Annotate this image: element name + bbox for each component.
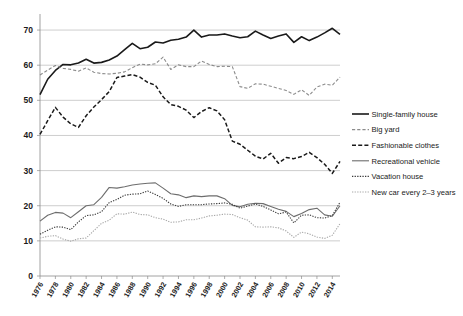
y-tick-label-10: 10	[24, 236, 34, 246]
y-tick-label-50: 50	[24, 95, 34, 105]
series-line-fashionable-clothes	[40, 75, 340, 174]
legend-label-vacation-house: Vacation house	[372, 172, 424, 181]
legend-label-fashionable-clothes: Fashionable clothes	[372, 141, 440, 150]
series-line-recreational-vehicle	[40, 183, 340, 221]
series-line-vacation-house	[40, 191, 340, 234]
x-tick-label-1982: 1982	[75, 281, 91, 300]
y-tick-label-30: 30	[24, 166, 34, 176]
x-tick-label-1984: 1984	[91, 280, 107, 299]
legend-label-single-family-house: Single-family house	[372, 110, 438, 119]
legend-label-big-yard: Big yard	[372, 125, 400, 134]
x-tick-label-2014: 2014	[322, 280, 338, 299]
x-tick-label-2008: 2008	[275, 281, 291, 300]
x-tick-label-1994: 1994	[168, 280, 184, 299]
y-tick-label-40: 40	[24, 130, 34, 140]
x-tick-label-2000: 2000	[214, 281, 230, 300]
x-tick-label-1992: 1992	[152, 281, 168, 300]
series-line-big-yard	[40, 57, 340, 95]
x-tick-label-1990: 1990	[137, 281, 153, 300]
x-tick-label-1998: 1998	[199, 281, 215, 300]
line-chart: 010203040506070 197619781980198219841986…	[0, 0, 463, 316]
x-tick-label-1996: 1996	[183, 281, 199, 300]
x-tick-label-2006: 2006	[260, 281, 276, 300]
gridlines	[40, 30, 340, 241]
series-lines	[40, 28, 340, 241]
x-tick-label-1978: 1978	[45, 281, 61, 300]
y-tick-label-70: 70	[24, 25, 34, 35]
x-tick-label-2012: 2012	[306, 281, 322, 300]
x-axis: 1976197819801982198419861988199019921994…	[29, 276, 340, 299]
x-tick-label-2010: 2010	[291, 281, 307, 300]
y-axis: 010203040506070	[24, 14, 40, 281]
chart-legend: Single-family houseBig yardFashionable c…	[352, 110, 456, 197]
y-tick-label-20: 20	[24, 201, 34, 211]
legend-label-new-car-every-2-3-years: New car every 2–3 years	[372, 188, 456, 197]
x-tick-label-2004: 2004	[245, 280, 261, 299]
y-tick-label-0: 0	[28, 271, 33, 281]
x-tick-label-1980: 1980	[60, 281, 76, 300]
chart-container: 010203040506070 197619781980198219841986…	[0, 0, 463, 316]
x-tick-label-1988: 1988	[122, 281, 138, 300]
series-line-single-family-house	[40, 28, 340, 94]
x-tick-label-1986: 1986	[106, 281, 122, 300]
y-tick-label-60: 60	[24, 60, 34, 70]
x-tick-label-1976: 1976	[29, 281, 45, 300]
legend-label-recreational-vehicle: Recreational vehicle	[372, 157, 440, 166]
x-tick-label-2002: 2002	[229, 281, 245, 300]
